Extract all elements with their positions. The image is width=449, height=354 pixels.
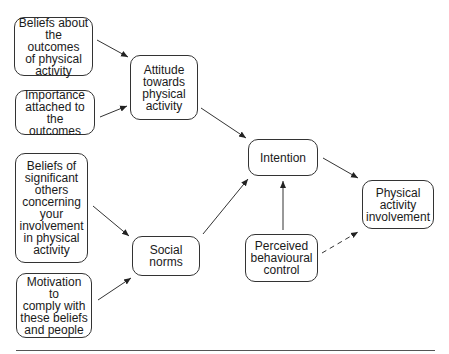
edge-social-norms-to-intention bbox=[203, 179, 248, 234]
node-label: Beliefs about the outcomes of physical a… bbox=[18, 17, 89, 77]
node-label: Perceived behavioural control bbox=[250, 240, 312, 276]
node-perceived-behavioural-control: Perceived behavioural control bbox=[245, 234, 318, 282]
bottom-rule-divider bbox=[16, 350, 435, 351]
node-label: Intention bbox=[260, 152, 306, 164]
node-label: Importance attached to the outcomes bbox=[19, 89, 91, 137]
node-importance-attached: Importance attached to the outcomes bbox=[15, 90, 95, 135]
edge-importance-to-attitude bbox=[100, 106, 127, 117]
node-label: Physical activity involvement bbox=[366, 187, 430, 223]
edge-motivation-to-social-norms bbox=[98, 278, 131, 300]
edge-beliefs-outcomes-to-attitude bbox=[97, 40, 128, 57]
node-intention: Intention bbox=[248, 139, 318, 176]
tpb-diagram: Beliefs about the outcomes of physical a… bbox=[0, 0, 449, 354]
node-attitude: Attitude towards physical activity bbox=[130, 55, 198, 120]
node-beliefs-about-outcomes: Beliefs about the outcomes of physical a… bbox=[14, 17, 93, 76]
node-motivation-to-comply: Motivation to comply with these beliefs … bbox=[16, 273, 92, 338]
node-label: Attitude towards physical activity bbox=[142, 64, 185, 112]
node-label: Social norms bbox=[149, 244, 182, 268]
node-physical-activity-involvement: Physical activity involvement bbox=[362, 180, 434, 229]
node-label: Motivation to comply with these beliefs … bbox=[20, 276, 88, 336]
node-social-norms: Social norms bbox=[132, 236, 200, 276]
node-beliefs-of-significant-others: Beliefs of significant others concerning… bbox=[15, 153, 88, 263]
edge-attitude-to-intention bbox=[201, 108, 246, 138]
edge-perceived-control-to-involvement-dashed bbox=[322, 232, 358, 253]
edge-intention-to-involvement bbox=[323, 158, 358, 178]
node-label: Beliefs of significant others concerning… bbox=[19, 160, 83, 256]
edge-beliefs-others-to-social-norms bbox=[93, 206, 129, 236]
